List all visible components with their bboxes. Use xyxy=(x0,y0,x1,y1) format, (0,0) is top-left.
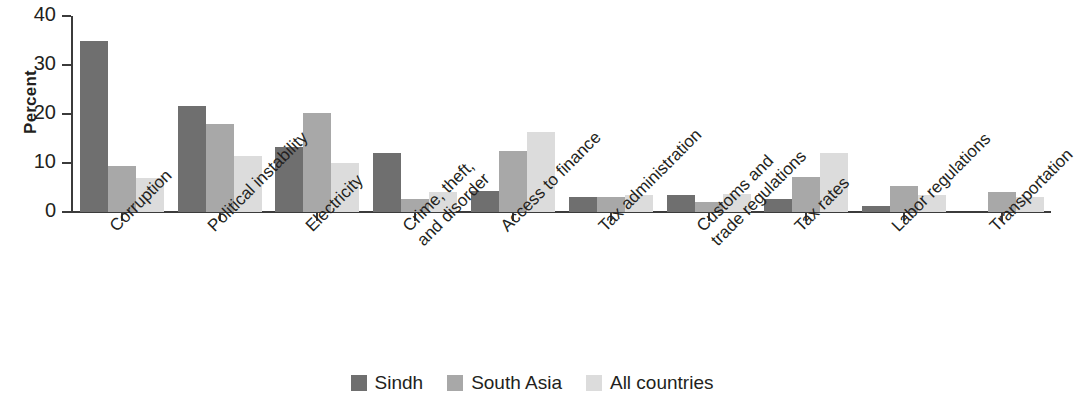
bar xyxy=(373,153,401,212)
bar xyxy=(178,106,206,212)
legend-swatch-icon xyxy=(351,375,367,391)
legend-label: Sindh xyxy=(375,372,424,394)
bar xyxy=(569,197,597,212)
legend-label: South Asia xyxy=(471,372,562,394)
y-axis-tick-label: 10 xyxy=(34,150,56,173)
chart-legend: SindhSouth AsiaAll countries xyxy=(0,372,1064,394)
legend-item[interactable]: All countries xyxy=(586,372,714,394)
y-axis-tick: 20 xyxy=(62,113,71,115)
legend-swatch-icon xyxy=(586,375,602,391)
y-axis-tick: 0 xyxy=(62,211,71,213)
y-axis-tick-label: 40 xyxy=(34,3,56,26)
legend-swatch-icon xyxy=(447,375,463,391)
y-axis-tick: 10 xyxy=(62,162,71,164)
legend-item[interactable]: South Asia xyxy=(447,372,562,394)
legend-label: All countries xyxy=(610,372,714,394)
y-axis-tick-label: 0 xyxy=(45,199,56,222)
y-axis-tick-label: 20 xyxy=(34,101,56,124)
y-axis-tick: 40 xyxy=(62,15,71,17)
bar xyxy=(667,195,695,212)
y-axis-tick-label: 30 xyxy=(34,52,56,75)
bar xyxy=(80,41,108,213)
legend-item[interactable]: Sindh xyxy=(351,372,424,394)
y-axis-tick: 30 xyxy=(62,64,71,66)
x-axis-category-labels: CorruptionPolitical instabilityElectrici… xyxy=(71,212,1051,362)
